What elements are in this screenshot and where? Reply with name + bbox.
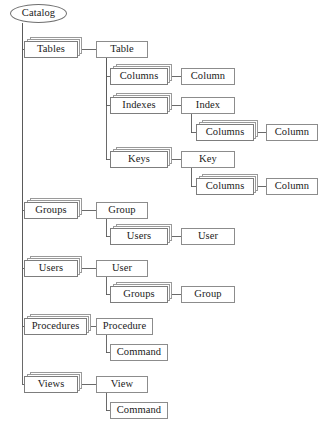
node-label: Command: [115, 347, 163, 358]
node-label: Keys: [126, 154, 152, 165]
node-label: Column: [273, 127, 311, 138]
node-idx-columns[interactable]: Columns: [196, 124, 254, 141]
node-tbl-indexes[interactable]: Indexes: [110, 97, 168, 114]
node-view-command[interactable]: Command: [110, 402, 168, 419]
node-label: Columns: [204, 181, 247, 192]
node-grp-user[interactable]: User: [181, 228, 235, 245]
node-procedures[interactable]: Procedures: [24, 318, 87, 335]
node-label: Users: [37, 263, 65, 274]
node-label: Column: [189, 71, 227, 82]
node-label: Group: [192, 289, 223, 300]
node-label: Table: [108, 44, 136, 55]
node-label: Groups: [121, 289, 157, 300]
node-label: Tables: [35, 44, 67, 55]
node-tables[interactable]: Tables: [24, 41, 78, 58]
node-label: Procedures: [30, 321, 82, 332]
diagram-canvas: CatalogTablesTableColumnsColumnIndexesIn…: [0, 0, 323, 428]
node-catalog[interactable]: Catalog: [10, 4, 67, 23]
node-label: Procedure: [101, 321, 148, 332]
node-user[interactable]: User: [96, 260, 148, 277]
node-label: User: [110, 263, 134, 274]
node-views[interactable]: Views: [24, 376, 78, 393]
node-index[interactable]: Index: [181, 97, 235, 114]
node-groups[interactable]: Groups: [24, 202, 78, 219]
node-label: Key: [197, 154, 219, 165]
node-procedure[interactable]: Procedure: [96, 318, 153, 335]
node-grp-users[interactable]: Users: [110, 228, 168, 245]
node-label: View: [109, 379, 136, 390]
node-usr-groups[interactable]: Groups: [110, 286, 168, 303]
node-key[interactable]: Key: [181, 151, 235, 168]
node-tbl-columns[interactable]: Columns: [110, 68, 168, 85]
node-label: Column: [273, 181, 311, 192]
node-usr-group[interactable]: Group: [181, 286, 235, 303]
node-tbl-column[interactable]: Column: [181, 68, 235, 85]
node-group[interactable]: Group: [96, 202, 148, 219]
node-label: Catalog: [20, 8, 57, 19]
node-idx-column[interactable]: Column: [266, 124, 318, 141]
node-key-columns[interactable]: Columns: [196, 178, 254, 195]
node-table[interactable]: Table: [96, 41, 148, 58]
node-label: User: [196, 231, 220, 242]
node-key-column[interactable]: Column: [266, 178, 318, 195]
node-tbl-keys[interactable]: Keys: [110, 151, 168, 168]
node-users[interactable]: Users: [24, 260, 78, 277]
node-view[interactable]: View: [96, 376, 148, 393]
node-label: Group: [106, 205, 137, 216]
node-label: Indexes: [120, 100, 157, 111]
node-label: Views: [36, 379, 67, 390]
node-label: Columns: [204, 127, 247, 138]
node-label: Users: [125, 231, 153, 242]
node-label: Columns: [118, 71, 161, 82]
node-label: Index: [194, 100, 222, 111]
node-label: Command: [115, 405, 163, 416]
node-proc-command[interactable]: Command: [110, 344, 168, 361]
node-label: Groups: [33, 205, 69, 216]
